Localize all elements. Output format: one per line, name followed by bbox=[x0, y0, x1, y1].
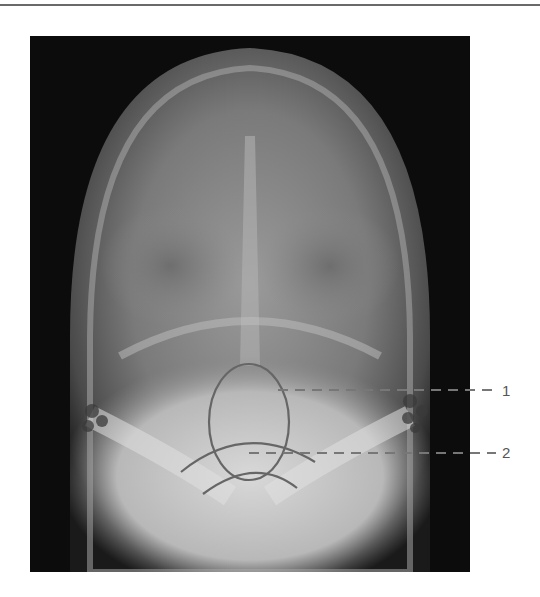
annotation-label-1: 1 bbox=[502, 383, 510, 398]
annotation-label-2: 2 bbox=[502, 445, 510, 460]
annotation-curve-lower bbox=[203, 473, 297, 494]
annotation-curve-upper bbox=[181, 443, 315, 472]
annotation-overlay bbox=[0, 0, 540, 597]
annotation-ellipse bbox=[209, 364, 289, 480]
